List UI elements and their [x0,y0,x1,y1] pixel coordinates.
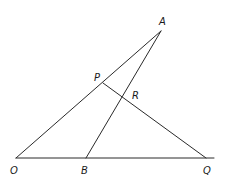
diagram-labels: A P R O B Q [10,16,211,176]
label-R: R [132,90,139,101]
label-P: P [94,72,101,83]
segment-PQ [103,83,206,158]
label-Q: Q [203,165,211,176]
segment-OA [16,31,161,158]
diagram-lines [16,31,214,158]
label-A: A [158,16,166,27]
label-O: O [10,165,18,176]
label-B: B [81,165,88,176]
segment-BA [86,31,161,158]
geometry-diagram: A P R O B Q [0,0,227,182]
